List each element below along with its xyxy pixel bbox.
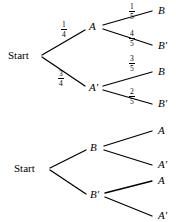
fraction-numerator: 3 <box>58 70 64 78</box>
edge2-bprime-to-aprime <box>105 197 152 216</box>
tree-2-edges <box>50 131 152 216</box>
tree-edges-group <box>0 0 176 222</box>
tree1-leaf-b-prime-2: B′ <box>158 98 167 109</box>
tree1-node-a: A <box>89 21 96 32</box>
tree1-leaf-b-1: B <box>158 5 165 16</box>
fraction-denominator: 5 <box>129 40 135 48</box>
tree2-leaf-a-prime-2: A′ <box>158 210 167 221</box>
fraction-numerator: 2 <box>129 88 135 96</box>
fraction-denominator: 4 <box>61 31 67 39</box>
fraction-denominator: 5 <box>129 98 135 106</box>
tree2-node-b: B <box>90 142 97 153</box>
tree2-leaf-a-2: A <box>158 175 165 186</box>
probability-a-to-bprime: 4 5 <box>129 30 135 48</box>
edge2-bprime-to-a <box>105 181 152 193</box>
fraction-denominator: 5 <box>129 13 135 21</box>
probability-aprime-to-b: 3 5 <box>129 55 135 73</box>
edge2-start-to-bprime <box>50 170 86 194</box>
tree1-node-a-prime: A′ <box>89 82 98 93</box>
tree2-leaf-a-1: A <box>158 125 165 136</box>
tree1-start-label: Start <box>8 50 29 61</box>
fraction-denominator: 4 <box>58 80 64 88</box>
probability-tree-figure: Start A A′ B B′ B B′ 1 4 3 4 1 5 4 5 3 5… <box>0 0 176 222</box>
fraction-denominator: 5 <box>129 65 135 73</box>
fraction-numerator: 3 <box>129 55 135 63</box>
probability-start-to-aprime: 3 4 <box>58 70 64 88</box>
fraction-numerator: 4 <box>129 30 135 38</box>
edge2-b-to-a <box>104 131 152 146</box>
fraction-numerator: 1 <box>61 21 67 29</box>
edge-a-to-bprime <box>103 29 152 45</box>
fraction-numerator: 1 <box>129 3 135 11</box>
tree1-leaf-b-prime-1: B′ <box>158 40 167 51</box>
edge-aprime-to-b <box>103 72 152 86</box>
probability-a-to-b: 1 5 <box>129 3 135 21</box>
tree2-leaf-a-prime-1: A′ <box>158 159 167 170</box>
probability-aprime-to-bprime: 2 5 <box>129 88 135 106</box>
tree2-start-label: Start <box>14 163 35 174</box>
edge2-b-to-aprime <box>104 150 152 165</box>
edge2-start-to-b <box>50 150 86 168</box>
probability-start-to-a: 1 4 <box>61 21 67 39</box>
tree2-node-b-prime: B′ <box>90 189 99 200</box>
edge-a-to-b <box>103 11 152 25</box>
edge-aprime-to-bprime <box>103 90 152 104</box>
tree1-leaf-b-2: B <box>158 66 165 77</box>
